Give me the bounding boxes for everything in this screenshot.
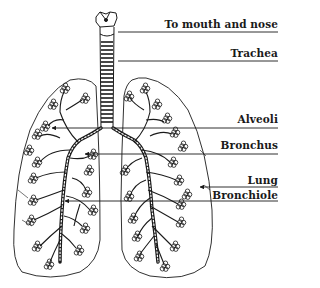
label-mouth-and-nose: To mouth and nose — [164, 19, 278, 30]
bronchi — [60, 128, 158, 262]
label-trachea: Trachea — [230, 48, 278, 59]
label-bronchus: Bronchus — [221, 140, 278, 151]
label-bronchiole: Bronchiole — [212, 190, 278, 201]
trachea-tube — [100, 27, 114, 128]
right-lung-outline — [121, 78, 212, 278]
mouth-nose-cap — [96, 12, 117, 27]
label-lung: Lung — [248, 175, 278, 186]
right-bronchioles — [126, 92, 178, 264]
label-alveoli: Alveoli — [237, 114, 278, 125]
